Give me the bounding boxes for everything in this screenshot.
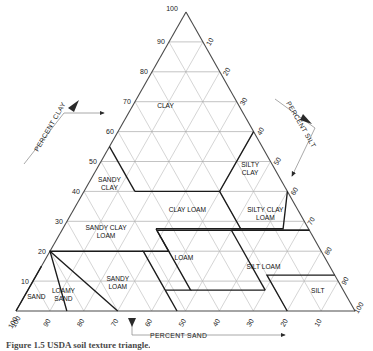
class-boundary-15 xyxy=(267,275,335,311)
tick-silt-10: 10 xyxy=(205,36,215,46)
class-label-loam: LOAM xyxy=(175,254,194,261)
tick-silt-60: 60 xyxy=(289,186,299,196)
tick-sand-30: 30 xyxy=(245,318,255,328)
class-label-silty-clay-loam: SILTY CLAYLOAM xyxy=(247,206,284,221)
percent-clay-title: PERCENT CLAY xyxy=(33,101,67,153)
tick-sand-60: 60 xyxy=(143,318,153,328)
tick-silt-40: 40 xyxy=(255,126,265,136)
tick-sand-40: 40 xyxy=(211,318,221,328)
tick-clay-10: 10 xyxy=(21,278,29,285)
tick-apex-100: 100 xyxy=(166,5,178,12)
tick-sand-10: 10 xyxy=(313,318,323,328)
percent-silt-annotation: PERCENT SILT xyxy=(275,99,317,176)
grid-lines xyxy=(33,42,338,311)
tick-clay-20: 20 xyxy=(38,248,46,255)
class-label-sandy-clay: SANDYCLAY xyxy=(98,176,121,191)
soil-texture-triangle-figure: 1009080706050403020101001020304050607080… xyxy=(0,0,373,351)
class-label-sand: SAND xyxy=(27,293,46,300)
figure-caption: Figure 1.5 USDA soil texture triangle. xyxy=(6,340,150,351)
tick-silt-100: 100 xyxy=(353,301,365,315)
class-label-silt-loam: SILT LOAM xyxy=(247,263,281,270)
tick-sand-70: 70 xyxy=(110,318,120,328)
tick-clay-90: 90 xyxy=(157,38,165,45)
caption-figure-number: Figure 1.5 USDA soil texture triangle. xyxy=(6,340,150,350)
tick-silt-70: 70 xyxy=(306,216,316,226)
tick-sand-50: 50 xyxy=(177,318,187,328)
class-label-silt: SILT xyxy=(311,287,324,294)
tick-silt-30: 30 xyxy=(239,96,249,106)
tick-clay-30: 30 xyxy=(55,218,63,225)
tick-clay-50: 50 xyxy=(89,158,97,165)
tick-sand-20: 20 xyxy=(279,318,289,328)
tick-clay-80: 80 xyxy=(140,68,148,75)
class-label-clay-loam: CLAY LOAM xyxy=(169,206,206,213)
percent-silt-title: PERCENT SILT xyxy=(285,100,317,149)
class-label-silty-clay: SILTYCLAY xyxy=(241,161,259,176)
tick-silt-90: 90 xyxy=(340,276,350,286)
class-boundary-17 xyxy=(16,266,42,311)
tick-sand-90: 90 xyxy=(42,318,52,328)
tick-silt-50: 50 xyxy=(272,156,282,166)
tick-clay-60: 60 xyxy=(106,128,114,135)
tick-silt-80: 80 xyxy=(323,246,333,256)
tick-clay-70: 70 xyxy=(123,98,131,105)
tick-clay-40: 40 xyxy=(72,188,80,195)
class-label-clay: CLAY xyxy=(157,102,174,109)
percent-clay-annotation: PERCENT CLAY xyxy=(24,100,104,164)
tick-silt-20: 20 xyxy=(222,66,232,76)
class-boundary-5 xyxy=(157,230,169,251)
class-label-loamy-sand: LOAMYSAND xyxy=(52,287,76,302)
ternary-diagram-svg: 1009080706050403020101001020304050607080… xyxy=(0,0,373,351)
tick-sand-80: 80 xyxy=(76,318,86,328)
percent-sand-title: PERCENT SAND xyxy=(150,332,207,339)
class-label-sandy-loam: SANDYLOAM xyxy=(106,275,129,290)
